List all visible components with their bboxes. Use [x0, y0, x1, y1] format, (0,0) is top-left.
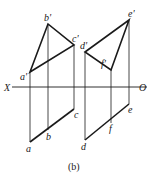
- label-b-prime: b': [44, 12, 52, 23]
- projection-lines: [30, 20, 129, 142]
- label-f: f: [109, 123, 113, 134]
- label-b: b: [46, 131, 51, 142]
- figure-caption: (b): [68, 161, 80, 173]
- triangle-def-top: [85, 104, 129, 140]
- label-e: e: [128, 104, 133, 115]
- label-e-prime: e': [128, 8, 135, 19]
- label-a-prime: a': [20, 71, 28, 82]
- label-d: d: [81, 141, 87, 152]
- label-c-prime: c': [72, 33, 79, 44]
- label-c: c: [74, 109, 79, 120]
- triangle-def-front: [85, 20, 129, 70]
- label-d-prime: d': [80, 40, 88, 51]
- label-o: O: [139, 82, 146, 93]
- projection-diagram: X O a' b' c' a b c d' e' f' d e f (b): [0, 0, 155, 181]
- label-f-prime: f': [101, 58, 107, 69]
- triangle-abc-top: [30, 109, 74, 142]
- label-x: X: [3, 82, 11, 93]
- triangle-abc-front: [30, 24, 74, 72]
- label-a: a: [26, 143, 31, 154]
